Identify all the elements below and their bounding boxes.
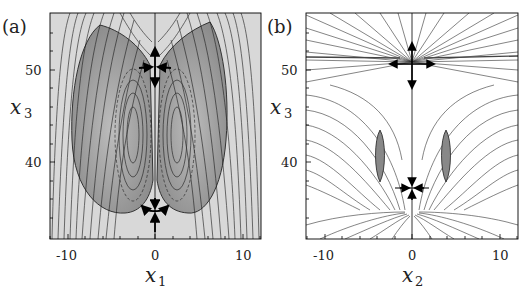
y-axis-label-b: x 3 xyxy=(270,95,292,121)
svg-text:3: 3 xyxy=(284,106,292,121)
svg-text:x: x xyxy=(402,263,413,287)
xtick-minus10-b: -10 xyxy=(313,248,334,263)
panel-label-a: (a) xyxy=(2,16,27,37)
xtick-10-a: 10 xyxy=(235,248,252,263)
y-axis-label-a: x 3 xyxy=(10,95,32,121)
x-axis-label-a: x 1 xyxy=(145,263,166,289)
xtick-minus10-a: -10 xyxy=(56,248,77,263)
svg-text:x: x xyxy=(270,95,281,119)
svg-text:x: x xyxy=(145,263,156,287)
xtick-10-b: 10 xyxy=(492,248,509,263)
xtick-0-a: 0 xyxy=(151,248,159,263)
svg-text:1: 1 xyxy=(158,274,166,289)
svg-text:3: 3 xyxy=(24,106,32,121)
panel-b: (b) 50 40 -10 0 10 x 3 x 2 xyxy=(267,13,518,289)
svg-text:2: 2 xyxy=(415,274,423,289)
ytick-50-b: 50 xyxy=(281,63,298,78)
xtick-0-b: 0 xyxy=(408,248,416,263)
ytick-50-a: 50 xyxy=(25,63,42,78)
separatrix-left-b xyxy=(306,57,400,58)
svg-text:x: x xyxy=(10,95,21,119)
ytick-40-a: 40 xyxy=(25,155,42,170)
ytick-40-b: 40 xyxy=(281,155,298,170)
panel-a: (a) 50 40 -10 0 10 x 3 x 1 xyxy=(2,13,261,289)
figure: (a) 50 40 -10 0 10 x 3 x 1 xyxy=(0,0,529,292)
panel-label-b: (b) xyxy=(267,16,293,37)
x-axis-label-b: x 2 xyxy=(402,263,423,289)
